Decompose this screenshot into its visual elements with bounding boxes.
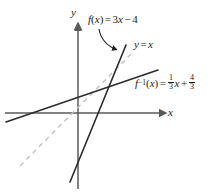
inverse-close-paren: )	[155, 77, 159, 89]
inverse-constant-denominator: 3	[189, 82, 195, 91]
function-slope-variable: x	[118, 13, 123, 25]
inverse-constant-numerator: 4	[189, 74, 195, 82]
identity-rhs: x	[148, 38, 153, 50]
inverse-equals: =	[160, 77, 166, 89]
identity-equation-label: y=x	[134, 38, 153, 50]
identity-equals: =	[140, 38, 146, 50]
function-equals: =	[105, 13, 111, 25]
callout-arrow-to-function-line	[99, 29, 117, 50]
function-equation-label: f(x)=3x−4	[88, 13, 138, 25]
inverse-slope-variable: x	[175, 77, 180, 89]
identity-line-y-equals-x	[20, 54, 131, 166]
identity-lhs: y	[134, 38, 139, 50]
inverse-slope-fraction: 1 3	[168, 74, 174, 91]
y-axis-arrowhead	[75, 23, 82, 31]
function-minus-sign: −	[124, 13, 130, 25]
plot-canvas	[0, 0, 211, 192]
inverse-slope-numerator: 1	[168, 74, 174, 82]
inverse-constant-fraction: 4 3	[189, 74, 195, 91]
function-close-paren: )	[100, 13, 104, 25]
inverse-plus-sign: +	[181, 77, 187, 89]
inverse-slope-denominator: 3	[168, 82, 174, 91]
inverse-function-graph-figure: y x f(x)=3x−4 y=x f−1(x)= 1 3 x+ 4 3	[0, 0, 211, 192]
inverse-function-equation-label: f−1(x)= 1 3 x+ 4 3	[135, 74, 196, 91]
function-constant: 4	[132, 13, 138, 25]
x-axis-label: x	[168, 106, 173, 118]
y-axis-label: y	[71, 6, 76, 18]
inverse-exponent: −1	[138, 78, 146, 87]
